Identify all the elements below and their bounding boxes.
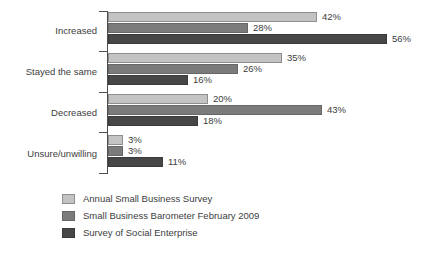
bar-small-business-barometer — [108, 146, 123, 156]
bar-annual-small-business-survey — [108, 94, 208, 104]
category-label: Increased — [0, 25, 97, 36]
legend-item-small-business-barometer: Small Business Barometer February 2009 — [62, 207, 402, 224]
category-group: Stayed the same 35% 26% 16% — [0, 53, 435, 93]
bar-annual-small-business-survey — [108, 12, 317, 22]
bar-survey-of-social-enterprise — [108, 116, 198, 126]
bar-survey-of-social-enterprise — [108, 75, 188, 85]
bar-value-label: 3% — [128, 134, 142, 145]
bar-annual-small-business-survey — [108, 53, 282, 63]
plot-area: Increased 42% 28% 56% Stayed the same 35… — [0, 0, 435, 180]
legend-label: Small Business Barometer February 2009 — [83, 210, 259, 221]
bar-value-label: 18% — [203, 115, 222, 126]
bar-survey-of-social-enterprise — [108, 34, 387, 44]
bar-value-label: 42% — [322, 11, 341, 22]
category-group: Unsure/unwilling 3% 3% 11% — [0, 135, 435, 175]
bar-small-business-barometer — [108, 64, 238, 74]
legend-swatch-icon — [62, 194, 75, 204]
category-label: Unsure/unwilling — [0, 148, 97, 159]
category-label: Stayed the same — [0, 66, 97, 77]
category-label: Decreased — [0, 107, 97, 118]
category-group: Increased 42% 28% 56% — [0, 12, 435, 52]
bar-survey-of-social-enterprise — [108, 157, 163, 167]
bar-small-business-barometer — [108, 23, 248, 33]
bar-value-label: 16% — [193, 74, 212, 85]
bar-chart: Increased 42% 28% 56% Stayed the same 35… — [0, 0, 435, 263]
bar-value-label: 43% — [327, 104, 346, 115]
category-group: Decreased 20% 43% 18% — [0, 94, 435, 134]
bar-value-label: 26% — [243, 63, 262, 74]
bar-value-label: 20% — [213, 93, 232, 104]
bar-value-label: 3% — [128, 145, 142, 156]
legend-swatch-icon — [62, 211, 75, 221]
legend-item-survey-of-social-enterprise: Survey of Social Enterprise — [62, 224, 402, 241]
legend-label: Survey of Social Enterprise — [83, 227, 198, 238]
bar-small-business-barometer — [108, 105, 322, 115]
legend-label: Annual Small Business Survey — [83, 193, 212, 204]
bar-value-label: 56% — [392, 33, 411, 44]
bar-value-label: 35% — [287, 52, 306, 63]
legend-item-annual-small-business-survey: Annual Small Business Survey — [62, 190, 402, 207]
bar-value-label: 11% — [168, 156, 186, 167]
chart-legend: Annual Small Business Survey Small Busin… — [62, 190, 402, 241]
legend-swatch-icon — [62, 228, 75, 238]
bar-annual-small-business-survey — [108, 135, 123, 145]
bar-value-label: 28% — [253, 22, 272, 33]
